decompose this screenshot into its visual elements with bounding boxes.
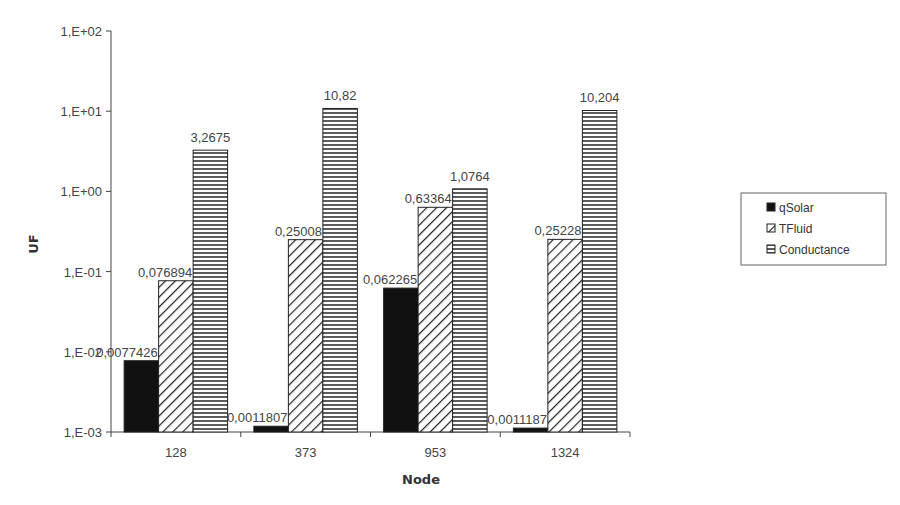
data-label: 0,0077426: [96, 345, 157, 360]
bar-qsolar: [513, 428, 548, 432]
bar-tfluid: [548, 239, 583, 432]
lines-swatch-icon: [767, 245, 775, 253]
y-tick-label: 1,E-03: [64, 425, 102, 440]
solid-swatch-icon: [767, 203, 775, 211]
y-tick-label: 1,E-01: [64, 265, 102, 280]
x-tick-label: 1324: [551, 445, 580, 460]
x-axis: 1283739531324: [111, 432, 630, 460]
data-label: 3,2675: [190, 130, 230, 145]
data-label: 10,82: [324, 88, 357, 103]
data-label: 1,0764: [450, 169, 490, 184]
data-label: 0,076894: [138, 265, 192, 280]
legend-item-label: TFluid: [779, 222, 812, 236]
y-tick-label: 1,E+02: [60, 24, 102, 39]
legend-item-label: qSolar: [779, 201, 814, 215]
x-tick-label: 373: [295, 445, 317, 460]
bar-tfluid: [418, 207, 453, 432]
legend: qSolarTFluidConductance: [741, 193, 886, 265]
bar-chart: 1,E-031,E-021,E-011,E+001,E+011,E+02 128…: [0, 0, 900, 505]
data-label: 0,0011807: [227, 410, 288, 425]
bar-qsolar: [124, 361, 159, 432]
bar-conductance: [193, 150, 228, 432]
bar-conductance: [582, 110, 617, 432]
data-label: 0,062265: [363, 272, 417, 287]
bar-qsolar: [384, 288, 419, 432]
y-tick-label: 1,E+00: [60, 184, 102, 199]
bar-qsolar: [254, 426, 289, 432]
data-label: 0,63364: [405, 191, 452, 206]
y-axis: 1,E-031,E-021,E-011,E+001,E+011,E+02: [60, 24, 111, 440]
x-tick-label: 128: [165, 445, 187, 460]
data-label: 0,25008: [275, 224, 322, 239]
bar-tfluid: [288, 240, 323, 432]
bar-conductance: [323, 108, 358, 432]
bar-conductance: [453, 189, 488, 432]
data-label: 0,25228: [534, 223, 581, 238]
x-tick-label: 953: [425, 445, 447, 460]
y-tick-label: 1,E+01: [60, 104, 102, 119]
data-label: 0,0011187: [487, 412, 547, 427]
bar-tfluid: [159, 281, 194, 432]
bar-series-group: [124, 108, 617, 432]
hatch-swatch-icon: [767, 224, 775, 232]
y-axis-title: UF: [26, 234, 41, 253]
data-label: 10,204: [580, 90, 620, 105]
x-axis-title: Node: [402, 472, 440, 487]
legend-item-label: Conductance: [779, 243, 850, 257]
